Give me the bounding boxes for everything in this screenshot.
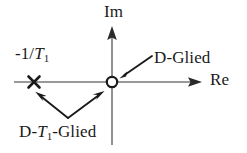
d-t1-glied-label: D-T1-Glied [19,122,96,142]
pole-zero-diagram: Im Re -1/T1 D-Glied D-T1-Glied [0,0,247,153]
d-t1-glied-arrow-right [68,91,105,118]
d-glied-label: D-Glied [154,48,210,68]
zero-circle-marker [107,77,117,87]
annotation-arrows-group [35,56,152,118]
pole-label-subscript: 1 [44,52,50,64]
d-t1-label-variable: T [37,122,47,141]
imaginary-axis-label: Im [104,2,123,22]
real-axis-label: Re [210,70,229,90]
d-glied-arrow [119,56,152,79]
pole-value-label: -1/T1 [15,44,49,64]
pole-label-variable: T [34,44,44,63]
d-t1-label-prefix: D- [19,122,37,141]
pole-label-prefix: -1/ [15,44,34,63]
d-t1-label-suffix: -Glied [52,122,96,141]
d-t1-glied-arrow-left [35,92,68,118]
